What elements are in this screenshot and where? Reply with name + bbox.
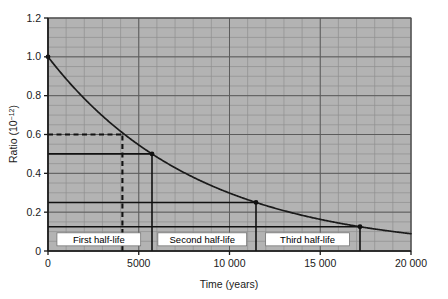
annotation-third-half-life: Third half-life <box>266 233 350 246</box>
y-axis-title-close: ) <box>7 105 19 109</box>
x-tick-label: 10 000 <box>213 257 245 269</box>
annotation-second-half-life: Second half-life <box>158 233 247 246</box>
half-life-annotations: First half-lifeSecond half-lifeThird hal… <box>57 233 349 246</box>
y-tick-label: 0 <box>35 245 41 257</box>
annotation-text: First half-life <box>73 234 125 245</box>
chart-svg: 0500010 00015 00020 000 00.20.40.60.81.0… <box>0 0 448 299</box>
y-tick-label: 1.0 <box>26 50 41 62</box>
x-axis-title: Time (years) <box>200 278 259 290</box>
y-axis-title-exponent: −12 <box>8 108 15 120</box>
annotation-text: Second half-life <box>170 234 235 245</box>
y-axis-title-base: Ratio (10 <box>7 120 19 163</box>
y-tick-label: 0.4 <box>26 167 41 179</box>
decay-chart-figure: 0500010 00015 00020 000 00.20.40.60.81.0… <box>0 0 448 299</box>
y-tick-label: 0.8 <box>26 89 41 101</box>
x-tick-label: 5000 <box>127 257 151 269</box>
y-tick-label: 0.6 <box>26 128 41 140</box>
third-half-life-point <box>358 224 363 229</box>
second-half-life-point <box>254 200 259 205</box>
y-tick-label: 0.2 <box>26 206 41 218</box>
x-tick-label: 20 000 <box>395 257 427 269</box>
y-tick-label: 1.2 <box>26 12 41 24</box>
annotation-text: Third half-life <box>280 234 335 245</box>
x-tick-label: 15 000 <box>304 257 336 269</box>
annotation-first-half-life: First half-life <box>57 233 141 246</box>
x-tick-label: 0 <box>45 257 51 269</box>
first-half-life-point <box>150 152 155 157</box>
